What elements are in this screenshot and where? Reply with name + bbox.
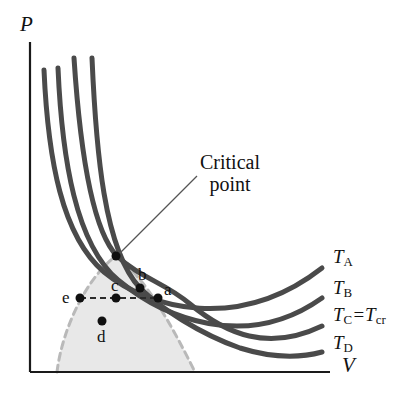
point-label-d: d <box>97 328 106 345</box>
point-label-e: e <box>62 289 70 306</box>
data-point-b <box>136 284 145 293</box>
isotherm-label-tc-equals: = <box>352 304 365 325</box>
isotherm-label-td-subscript: D <box>344 340 354 355</box>
isotherm-label-ta: TA <box>333 247 353 269</box>
point-label-c: c <box>111 277 119 294</box>
isotherm-label-tcr-subscript: cr <box>376 312 386 327</box>
isotherm-label-ta-symbol: T <box>333 246 344 267</box>
critical-point-annotation-line1: Critical <box>200 152 260 174</box>
isotherm-label-tb-symbol: T <box>333 277 344 298</box>
isotherm-label-tb-subscript: B <box>344 285 353 300</box>
isotherm-label-tc-symbol: T <box>333 304 344 325</box>
pressure-axis-label: P <box>20 14 33 35</box>
isotherm-label-td-symbol: T <box>333 332 344 353</box>
critical-point-leader-line <box>117 176 197 256</box>
isotherm-label-tcr-symbol: T <box>365 304 376 325</box>
isotherm-label-tc: TC=Tcr <box>333 305 386 327</box>
isotherm-label-td: TD <box>333 333 353 355</box>
data-point-d <box>98 317 107 326</box>
point-label-a: a <box>164 281 172 298</box>
data-point-critical <box>112 252 121 261</box>
critical-point-annotation: Critical point <box>200 152 260 195</box>
data-point-a <box>154 294 163 303</box>
pv-diagram-figure: P V Critical point TA TB TC=Tcr TD abcde <box>0 0 409 399</box>
point-label-b: b <box>138 266 147 283</box>
critical-point-annotation-line2: point <box>200 174 260 196</box>
data-point-e <box>76 294 85 303</box>
isotherm-label-ta-subscript: A <box>344 254 354 269</box>
volume-axis-label: V <box>342 355 355 376</box>
isotherm-label-tb: TB <box>333 278 352 300</box>
